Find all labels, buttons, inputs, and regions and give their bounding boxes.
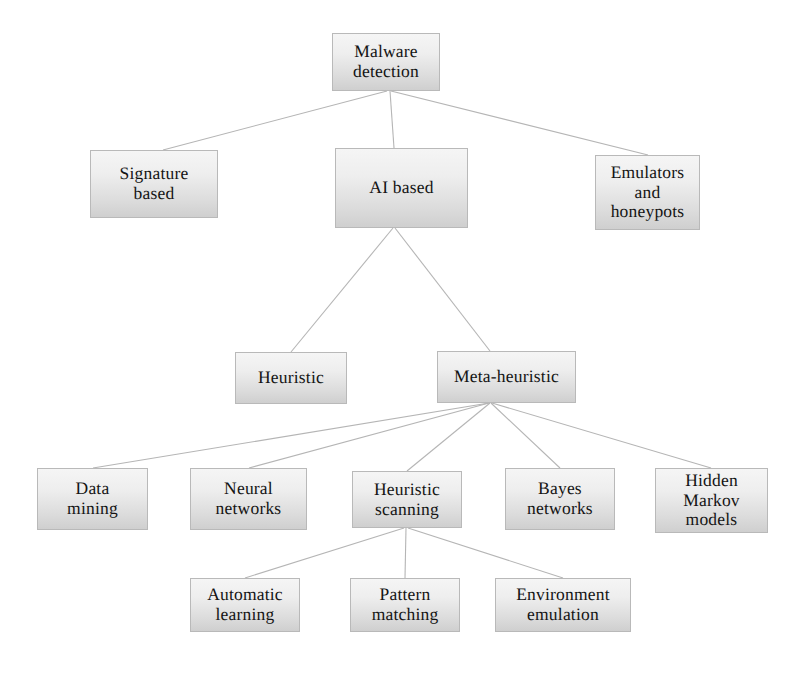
edge-meta_heuristic-to-heuristic_scanning — [407, 403, 490, 471]
edge-meta_heuristic-to-bayes_networks — [491, 403, 560, 468]
node-pattern_matching[interactable]: Pattern matching — [350, 578, 460, 632]
edge-meta_heuristic-to-hidden_markov_models — [492, 403, 711, 468]
node-meta_heuristic[interactable]: Meta-heuristic — [437, 351, 576, 403]
node-label: Bayes networks — [523, 479, 597, 518]
node-signature_based[interactable]: Signature based — [90, 150, 218, 218]
edge-heuristic_scanning-to-environment_emulation — [408, 528, 563, 578]
node-bayes_networks[interactable]: Bayes networks — [505, 468, 615, 530]
node-label: Malware detection — [349, 42, 423, 81]
node-label: Meta-heuristic — [450, 367, 563, 387]
node-label: Hidden Markov models — [679, 471, 744, 530]
edge-ai_based-to-meta_heuristic — [395, 228, 490, 351]
node-label: Pattern matching — [368, 585, 443, 624]
node-environment_emulation[interactable]: Environment emulation — [495, 578, 631, 632]
node-heuristic_scanning[interactable]: Heuristic scanning — [352, 471, 462, 528]
node-label: Data mining — [63, 479, 122, 518]
edge-meta_heuristic-to-data_mining — [93, 403, 489, 468]
node-label: Environment emulation — [512, 585, 614, 624]
node-data_mining[interactable]: Data mining — [37, 468, 148, 530]
node-label: Emulators and honeypots — [607, 163, 689, 222]
edge-meta_heuristic-to-neural_networks — [249, 403, 489, 468]
edge-heuristic_scanning-to-automatic_learning — [245, 528, 404, 578]
node-automatic_learning[interactable]: Automatic learning — [190, 578, 300, 632]
node-emulators_and_honeypots[interactable]: Emulators and honeypots — [595, 155, 700, 230]
edge-malware_detection-to-signature_based — [163, 91, 387, 150]
node-label: Signature based — [116, 164, 193, 203]
node-malware_detection[interactable]: Malware detection — [332, 33, 440, 91]
edge-malware_detection-to-emulators_and_honeypots — [391, 91, 648, 155]
node-label: Heuristic scanning — [370, 480, 444, 519]
node-label: Heuristic — [254, 368, 328, 388]
node-label: Automatic learning — [203, 585, 287, 624]
edge-layer — [0, 0, 807, 673]
edge-heuristic_scanning-to-pattern_matching — [405, 528, 406, 578]
node-neural_networks[interactable]: Neural networks — [190, 468, 307, 530]
edge-ai_based-to-heuristic — [291, 228, 393, 352]
node-label: Neural networks — [212, 479, 286, 518]
edge-malware_detection-to-ai_based — [390, 91, 394, 148]
node-hidden_markov_models[interactable]: Hidden Markov models — [655, 468, 768, 533]
node-label: AI based — [365, 178, 437, 198]
node-ai_based[interactable]: AI based — [335, 148, 468, 228]
diagram-canvas: Malware detectionSignature basedAI based… — [0, 0, 807, 673]
node-heuristic[interactable]: Heuristic — [235, 352, 347, 404]
